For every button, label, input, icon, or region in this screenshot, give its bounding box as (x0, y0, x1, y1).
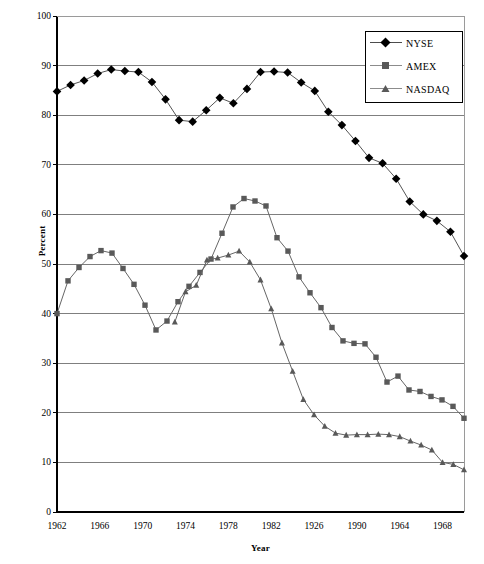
chart-figure: Percent 1009080706050403020100 196219661… (0, 0, 484, 564)
datapoint-nyse-17 (283, 68, 292, 77)
datapoint-nyse-1 (66, 81, 75, 90)
datapoint-amex-9 (153, 327, 158, 332)
datapoint-nyse-8 (161, 95, 170, 104)
triangle-icon (380, 83, 391, 94)
y-tick-80: 80 (21, 110, 51, 120)
series-nasdaq (172, 248, 467, 473)
datapoint-amex-34 (428, 394, 433, 399)
datapoint-amex-7 (131, 282, 136, 287)
x-tick-1966: 1966 (77, 521, 123, 532)
datapoint-amex-26 (340, 338, 345, 343)
datapoint-amex-27 (351, 341, 356, 346)
datapoint-amex-28 (362, 341, 367, 346)
datapoint-amex-16 (230, 204, 235, 209)
y-tick-70: 70 (21, 160, 51, 170)
datapoint-nyse-30 (460, 252, 469, 261)
datapoint-nasdaq-27 (461, 467, 467, 473)
datapoint-nyse-6 (134, 68, 143, 77)
y-tick-90: 90 (21, 61, 51, 71)
datapoint-amex-2 (76, 265, 81, 270)
datapoint-nasdaq-12 (300, 396, 306, 402)
datapoint-amex-0 (54, 311, 59, 316)
series-amex (54, 196, 466, 421)
series-line-amex (57, 199, 464, 419)
datapoint-amex-20 (274, 235, 279, 240)
datapoint-amex-21 (285, 248, 290, 253)
legend-sample-amex (366, 57, 406, 75)
x-tick-1964: 1964 (377, 521, 423, 532)
legend-item-nyse: NYSE (366, 33, 464, 53)
y-tick-0: 0 (21, 507, 51, 517)
datapoint-amex-35 (439, 397, 444, 402)
legend-sample-nyse (366, 34, 406, 52)
datapoint-amex-18 (252, 198, 257, 203)
y-tick-30: 30 (21, 358, 51, 368)
datapoint-amex-11 (175, 299, 180, 304)
datapoint-nyse-9 (175, 116, 184, 125)
datapoint-nyse-0 (53, 87, 62, 96)
datapoint-nasdaq-10 (279, 340, 285, 346)
datapoint-amex-3 (87, 254, 92, 259)
series-line-nasdaq (175, 251, 464, 470)
datapoint-nasdaq-15 (332, 430, 338, 436)
datapoint-amex-24 (318, 305, 323, 310)
legend-sample-nasdaq (366, 80, 406, 98)
chart-legend: NYSE AMEX NASDAQ (365, 31, 463, 103)
datapoint-amex-17 (241, 196, 246, 201)
datapoint-amex-33 (417, 389, 422, 394)
legend-item-nasdaq: NASDAQ (366, 79, 464, 99)
y-tick-100: 100 (21, 11, 51, 21)
datapoint-nasdaq-24 (429, 447, 435, 453)
datapoint-amex-32 (406, 387, 411, 392)
datapoint-amex-10 (164, 318, 169, 323)
x-tick-1990: 1990 (334, 521, 380, 532)
x-axis-title: Year (57, 543, 464, 553)
y-tick-40: 40 (21, 309, 51, 319)
y-tick-20: 20 (21, 408, 51, 418)
datapoint-amex-1 (65, 278, 70, 283)
datapoint-amex-6 (120, 266, 125, 271)
datapoint-nasdaq-0 (172, 319, 178, 325)
y-tick-10: 10 (21, 457, 51, 467)
diamond-icon (380, 37, 391, 48)
datapoint-nyse-4 (107, 65, 116, 74)
x-tick-1978: 1978 (205, 521, 251, 532)
square-icon (380, 60, 391, 71)
datapoint-nasdaq-8 (258, 277, 264, 283)
x-tick-1974: 1974 (163, 521, 209, 532)
datapoint-nasdaq-11 (290, 368, 296, 374)
datapoint-amex-31 (395, 373, 400, 378)
datapoint-amex-29 (373, 355, 378, 360)
datapoint-nasdaq-9 (268, 305, 274, 311)
legend-item-amex: AMEX (366, 56, 464, 76)
datapoint-nyse-18 (297, 78, 306, 87)
datapoint-amex-22 (296, 274, 301, 279)
datapoint-amex-15 (219, 231, 224, 236)
datapoint-nyse-16 (270, 67, 279, 76)
datapoint-nyse-7 (148, 78, 157, 87)
legend-label-nyse: NYSE (406, 38, 433, 49)
datapoint-amex-23 (307, 290, 312, 295)
x-tick-1962: 1962 (34, 521, 80, 532)
datapoint-amex-5 (109, 250, 114, 255)
x-tick-1926: 1926 (291, 521, 337, 532)
datapoint-amex-37 (461, 416, 466, 421)
datapoint-nyse-19 (310, 87, 319, 96)
datapoint-nyse-2 (80, 76, 89, 85)
x-tick-1970: 1970 (120, 521, 166, 532)
datapoint-amex-25 (329, 325, 334, 330)
datapoint-amex-8 (142, 302, 147, 307)
y-tick-50: 50 (21, 259, 51, 269)
legend-label-amex: AMEX (406, 61, 437, 72)
datapoint-nyse-3 (93, 69, 102, 78)
y-tick-60: 60 (21, 209, 51, 219)
legend-label-nasdaq: NASDAQ (406, 84, 449, 95)
datapoint-nasdaq-6 (236, 248, 242, 254)
datapoint-amex-19 (263, 203, 268, 208)
datapoint-amex-36 (450, 404, 455, 409)
datapoint-amex-30 (384, 379, 389, 384)
datapoint-nasdaq-1 (183, 289, 189, 295)
x-tick-1968: 1968 (420, 521, 466, 532)
datapoint-nasdaq-2 (193, 282, 199, 288)
x-tick-1982: 1982 (248, 521, 294, 532)
